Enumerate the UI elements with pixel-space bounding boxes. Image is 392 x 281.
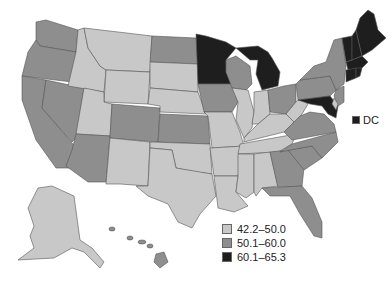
legend: 42.2–50.0 50.1–60.0 60.1–65.3 [222, 222, 286, 264]
dc-text: DC [363, 114, 379, 126]
state-hi [109, 227, 168, 268]
legend-swatch-dark [222, 252, 232, 262]
state-me [356, 10, 386, 56]
state-ct [346, 68, 356, 82]
state-nm [106, 138, 150, 186]
dc-swatch [352, 116, 360, 124]
state-ak [18, 186, 104, 268]
legend-label-dark: 60.1–65.3 [237, 251, 286, 263]
state-wy [104, 70, 150, 104]
state-ms [236, 154, 254, 198]
legend-item-mid: 50.1–60.0 [222, 236, 286, 250]
state-ks [158, 114, 210, 144]
legend-item-light: 42.2–50.0 [222, 222, 286, 236]
dc-label: DC [352, 114, 379, 126]
legend-label-light: 42.2–50.0 [237, 223, 286, 235]
legend-item-dark: 60.1–65.3 [222, 250, 286, 264]
state-sd [150, 62, 198, 92]
us-map [0, 0, 392, 281]
state-ri [356, 68, 362, 78]
legend-label-mid: 50.1–60.0 [237, 237, 286, 249]
state-co [110, 104, 160, 142]
legend-swatch-mid [222, 238, 232, 248]
legend-swatch-light [222, 224, 232, 234]
state-nd [150, 36, 198, 64]
